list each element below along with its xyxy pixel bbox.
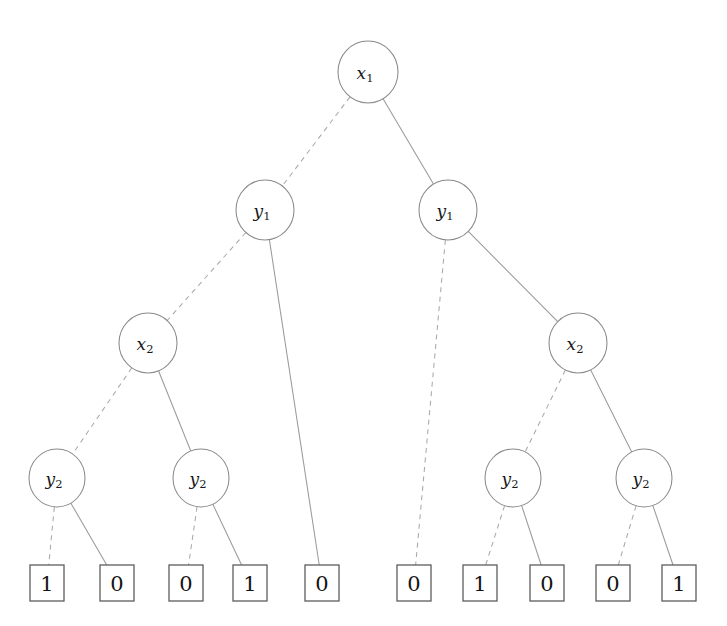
edge-n0-to-n1-branch-0 [282, 97, 350, 186]
edge-n1-to-l4-branch-1 [269, 240, 319, 565]
leaf-value-label: 1 [473, 572, 486, 596]
terminal-leaf-1[interactable]: 1 [233, 565, 267, 601]
decision-node-y1[interactable]: y1 [236, 180, 294, 240]
decision-node-y2[interactable]: y2 [616, 449, 672, 507]
edge-n6-to-l3-branch-1 [213, 504, 242, 565]
edge-n3-to-n6-branch-1 [159, 371, 191, 451]
decision-node-y2[interactable]: y2 [173, 449, 229, 507]
edge-n5-to-l0-branch-0 [49, 507, 55, 565]
edge-n0-to-n2-branch-1 [383, 99, 433, 184]
decision-node-x2[interactable]: x2 [549, 313, 607, 373]
edge-n8-to-l8-branch-0 [618, 506, 636, 565]
terminal-leaf-0[interactable]: 0 [596, 565, 630, 601]
leaf-value-label: 1 [672, 572, 685, 596]
leaves-layer: 1001001001 [30, 565, 696, 601]
terminal-leaf-0[interactable]: 0 [397, 565, 431, 601]
node-label-subscript: 2 [576, 342, 583, 356]
node-label-subscript: 2 [642, 477, 649, 491]
leaf-value-label: 1 [243, 572, 256, 596]
node-label-subscript: 1 [263, 209, 270, 223]
leaf-value-label: 0 [540, 572, 553, 596]
node-label-subscript: 2 [55, 477, 62, 491]
terminal-leaf-1[interactable]: 1 [463, 565, 497, 601]
decision-tree-diagram: x1y1y1x2x2y2y2y2y2 1001001001 [0, 0, 727, 626]
terminal-leaf-0[interactable]: 0 [530, 565, 564, 601]
edge-n7-to-l6-branch-0 [486, 506, 505, 565]
node-label-subscript: 1 [446, 209, 453, 223]
edge-n2-to-n4-branch-1 [468, 231, 557, 321]
decision-node-x2[interactable]: x2 [119, 313, 177, 373]
edge-n6-to-l2-branch-0 [189, 507, 197, 565]
decision-node-x1[interactable]: x1 [338, 41, 398, 103]
leaf-value-label: 0 [606, 572, 619, 596]
decision-node-y1[interactable]: y1 [419, 180, 477, 240]
edge-n8-to-l9-branch-1 [653, 506, 673, 565]
decision-node-y2[interactable]: y2 [485, 449, 541, 507]
edge-n2-to-l5-branch-0 [416, 240, 446, 565]
edge-n4-to-n8-branch-1 [591, 370, 632, 452]
node-label-subscript: 2 [511, 477, 518, 491]
leaf-value-label: 1 [40, 572, 53, 596]
terminal-leaf-0[interactable]: 0 [169, 565, 203, 601]
edge-n7-to-l7-branch-1 [522, 506, 542, 565]
node-label-subscript: 1 [366, 71, 373, 85]
terminal-leaf-1[interactable]: 1 [30, 565, 64, 601]
leaf-value-label: 0 [407, 572, 420, 596]
leaf-value-label: 0 [110, 572, 123, 596]
node-label-subscript: 2 [146, 342, 153, 356]
terminal-leaf-1[interactable]: 1 [662, 565, 696, 601]
nodes-layer: x1y1y1x2x2y2y2y2y2 [29, 41, 672, 507]
edge-n1-to-n3-branch-0 [167, 233, 246, 321]
terminal-leaf-0[interactable]: 0 [305, 565, 339, 601]
node-label-subscript: 2 [199, 477, 206, 491]
edge-n3-to-n5-branch-0 [73, 368, 132, 454]
edge-n5-to-l1-branch-1 [71, 503, 107, 565]
leaf-value-label: 0 [179, 572, 192, 596]
tree-canvas: x1y1y1x2x2y2y2y2y2 1001001001 [0, 0, 727, 626]
terminal-leaf-0[interactable]: 0 [100, 565, 134, 601]
decision-node-y2[interactable]: y2 [29, 449, 85, 507]
leaf-value-label: 0 [315, 572, 328, 596]
edge-n4-to-n7-branch-0 [525, 370, 565, 452]
